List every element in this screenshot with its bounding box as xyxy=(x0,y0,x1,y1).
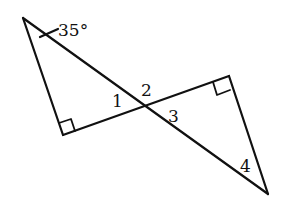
angle-label-1: 1 xyxy=(112,91,123,111)
angle-label-4: 4 xyxy=(240,156,251,176)
angle-label-35: 35° xyxy=(58,20,88,40)
segment-cd xyxy=(229,76,268,194)
right-angle-marker-c xyxy=(213,82,230,95)
segment-ad xyxy=(23,18,268,194)
angle-label-2: 2 xyxy=(141,80,152,100)
geometry-diagram: 35° 1 2 3 4 xyxy=(0,0,283,204)
angle-label-3: 3 xyxy=(168,106,179,126)
